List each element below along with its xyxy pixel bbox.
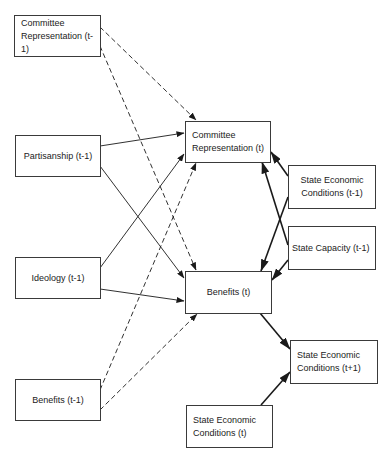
node-label: Benefits (t) <box>207 286 251 299</box>
node-state-economic-conditions-t-plus-1: State Economic Conditions (t+1) <box>290 340 378 384</box>
node-label: State Economic Conditions (t) <box>193 414 256 440</box>
node-partisanship-t-minus-1: Partisanship (t-1) <box>15 135 101 177</box>
node-committee-representation-t: Committee Representation (t) <box>185 121 271 163</box>
node-label: Committee Representation (t-1) <box>21 17 100 56</box>
node-benefits-t-minus-1: Benefits (t-1) <box>15 379 101 421</box>
edge-benefits-t1-to-comrep-t <box>100 163 196 390</box>
node-label: Ideology (t-1) <box>31 272 84 285</box>
node-state-economic-conditions-t: State Economic Conditions (t) <box>186 405 273 448</box>
node-label: Committee Representation (t) <box>192 129 264 155</box>
path-diagram: Committee Representation (t-1) Partisans… <box>0 0 388 460</box>
edge-stateecon-t1-to-comrep-t <box>271 152 288 176</box>
node-benefits-t: Benefits (t) <box>185 271 272 314</box>
edge-ideology-to-comrep-t <box>100 154 184 268</box>
node-ideology-t-minus-1: Ideology (t-1) <box>15 257 101 299</box>
node-label: Partisanship (t-1) <box>24 150 93 163</box>
edge-partisanship-to-benefits-t <box>100 166 184 278</box>
edge-benefits-t-to-stateecon-tplus1 <box>260 313 290 349</box>
node-label: State Capacity (t-1) <box>292 242 370 255</box>
node-state-economic-conditions-t-minus-1: State Economic Conditions (t-1) <box>288 165 376 209</box>
node-state-capacity-t-minus-1: State Capacity (t-1) <box>288 226 376 270</box>
node-committee-representation-t-minus-1: Committee Representation (t-1) <box>14 15 101 57</box>
edge-comrep-t1-to-comrep-t <box>100 27 196 120</box>
node-label: Benefits (t-1) <box>32 394 84 407</box>
edge-stateecon-t-to-stateecon-tplus1 <box>261 372 290 405</box>
edge-benefits-t1-to-benefits-t <box>100 314 197 410</box>
edge-statecap-to-benefits-t <box>272 260 288 280</box>
node-label: State Economic Conditions (t+1) <box>297 349 361 375</box>
node-label: State Economic Conditions (t-1) <box>300 174 363 200</box>
